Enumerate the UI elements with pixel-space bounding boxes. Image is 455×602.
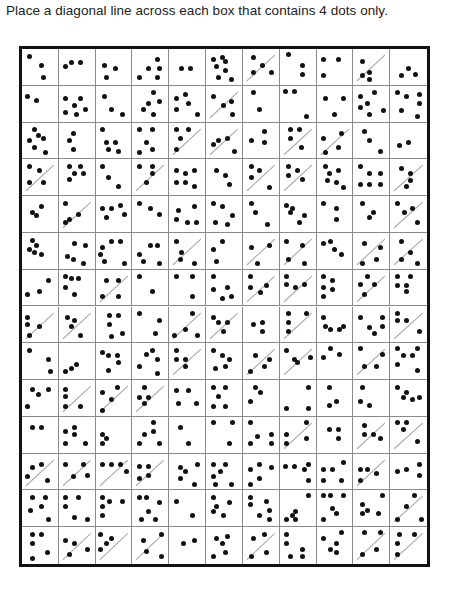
grid-box[interactable] xyxy=(353,123,390,160)
grid-box[interactable] xyxy=(353,159,390,196)
grid-box[interactable] xyxy=(169,454,206,491)
grid-box[interactable] xyxy=(206,417,243,454)
grid-box[interactable] xyxy=(206,86,243,123)
grid-box[interactable] xyxy=(280,233,317,270)
grid-box[interactable] xyxy=(22,307,59,344)
grid-box[interactable] xyxy=(59,527,96,564)
grid-box[interactable] xyxy=(206,233,243,270)
grid-box[interactable] xyxy=(96,49,133,86)
grid-box[interactable] xyxy=(317,123,354,160)
grid-box[interactable] xyxy=(22,159,59,196)
grid-box[interactable] xyxy=(22,527,59,564)
grid-box[interactable] xyxy=(96,490,133,527)
grid-box[interactable] xyxy=(390,343,427,380)
grid-box[interactable] xyxy=(243,270,280,307)
grid-box[interactable] xyxy=(59,159,96,196)
grid-box[interactable] xyxy=(132,307,169,344)
grid-box[interactable] xyxy=(132,454,169,491)
grid-box[interactable] xyxy=(206,196,243,233)
grid-box[interactable] xyxy=(280,343,317,380)
grid-box[interactable] xyxy=(280,380,317,417)
grid-box[interactable] xyxy=(353,527,390,564)
grid-box[interactable] xyxy=(390,380,427,417)
grid-box[interactable] xyxy=(243,490,280,527)
grid-box[interactable] xyxy=(169,417,206,454)
grid-box[interactable] xyxy=(22,490,59,527)
grid-box[interactable] xyxy=(280,86,317,123)
grid-box[interactable] xyxy=(280,270,317,307)
grid-box[interactable] xyxy=(390,454,427,491)
grid-box[interactable] xyxy=(169,527,206,564)
grid-box[interactable] xyxy=(96,233,133,270)
grid-box[interactable] xyxy=(206,490,243,527)
grid-box[interactable] xyxy=(353,270,390,307)
grid-box[interactable] xyxy=(353,233,390,270)
grid-box[interactable] xyxy=(280,159,317,196)
grid-box[interactable] xyxy=(169,49,206,86)
grid-box[interactable] xyxy=(280,196,317,233)
grid-box[interactable] xyxy=(169,233,206,270)
grid-box[interactable] xyxy=(317,490,354,527)
grid-box[interactable] xyxy=(96,270,133,307)
grid-box[interactable] xyxy=(390,159,427,196)
grid-box[interactable] xyxy=(280,307,317,344)
grid-box[interactable] xyxy=(243,307,280,344)
grid-box[interactable] xyxy=(353,417,390,454)
grid-box[interactable] xyxy=(132,380,169,417)
grid-box[interactable] xyxy=(206,380,243,417)
grid-box[interactable] xyxy=(59,86,96,123)
grid-box[interactable] xyxy=(59,380,96,417)
grid-box[interactable] xyxy=(96,196,133,233)
grid-box[interactable] xyxy=(243,86,280,123)
grid-box[interactable] xyxy=(243,49,280,86)
grid-box[interactable] xyxy=(353,307,390,344)
grid-box[interactable] xyxy=(353,196,390,233)
grid-box[interactable] xyxy=(390,123,427,160)
grid-box[interactable] xyxy=(169,196,206,233)
grid-box[interactable] xyxy=(169,307,206,344)
grid-box[interactable] xyxy=(132,490,169,527)
grid-box[interactable] xyxy=(206,454,243,491)
grid-box[interactable] xyxy=(132,343,169,380)
grid-box[interactable] xyxy=(206,270,243,307)
grid-box[interactable] xyxy=(317,527,354,564)
grid-box[interactable] xyxy=(280,123,317,160)
grid-box[interactable] xyxy=(96,454,133,491)
grid-box[interactable] xyxy=(132,270,169,307)
grid-box[interactable] xyxy=(169,380,206,417)
grid-box[interactable] xyxy=(22,343,59,380)
grid-box[interactable] xyxy=(280,490,317,527)
grid-box[interactable] xyxy=(169,270,206,307)
grid-box[interactable] xyxy=(390,86,427,123)
grid-box[interactable] xyxy=(353,490,390,527)
grid-box[interactable] xyxy=(96,307,133,344)
grid-box[interactable] xyxy=(169,490,206,527)
grid-box[interactable] xyxy=(280,527,317,564)
grid-box[interactable] xyxy=(96,86,133,123)
grid-box[interactable] xyxy=(132,123,169,160)
grid-box[interactable] xyxy=(59,490,96,527)
grid-box[interactable] xyxy=(59,454,96,491)
grid-box[interactable] xyxy=(317,86,354,123)
grid-box[interactable] xyxy=(22,270,59,307)
grid-box[interactable] xyxy=(243,380,280,417)
grid-box[interactable] xyxy=(390,307,427,344)
grid-box[interactable] xyxy=(280,49,317,86)
grid-box[interactable] xyxy=(169,343,206,380)
grid-box[interactable] xyxy=(243,159,280,196)
grid-box[interactable] xyxy=(353,454,390,491)
grid-box[interactable] xyxy=(206,343,243,380)
grid-box[interactable] xyxy=(169,123,206,160)
grid-box[interactable] xyxy=(22,417,59,454)
grid-box[interactable] xyxy=(96,123,133,160)
grid-box[interactable] xyxy=(353,343,390,380)
grid-box[interactable] xyxy=(317,270,354,307)
grid-box[interactable] xyxy=(317,49,354,86)
grid-box[interactable] xyxy=(280,417,317,454)
grid-box[interactable] xyxy=(132,417,169,454)
grid-box[interactable] xyxy=(317,343,354,380)
grid-box[interactable] xyxy=(59,233,96,270)
grid-box[interactable] xyxy=(317,454,354,491)
grid-box[interactable] xyxy=(206,123,243,160)
grid-box[interactable] xyxy=(353,380,390,417)
